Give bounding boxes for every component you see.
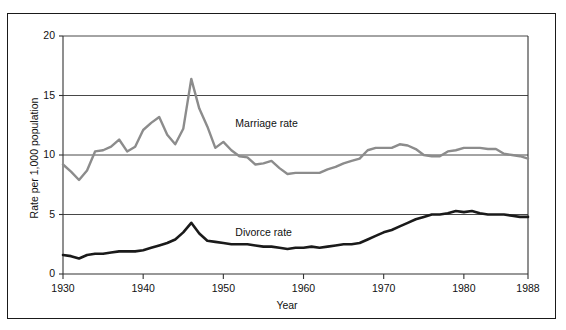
x-tick-label-1988: 1988: [504, 282, 552, 294]
plot-wrapper: Rate per 1,000 population Year 05101520 …: [0, 0, 566, 330]
x-tick-label-1950: 1950: [199, 282, 247, 294]
x-tick-label-1930: 1930: [39, 282, 87, 294]
y-tick-label-5: 5: [29, 208, 55, 220]
series-line-divorce-rate: [63, 211, 528, 259]
x-tick-label-1940: 1940: [119, 282, 167, 294]
annotation-marriage-rate: Marriage rate: [235, 117, 297, 129]
y-tick-label-10: 10: [29, 148, 55, 160]
y-tick-label-15: 15: [29, 89, 55, 101]
x-tick-label-1960: 1960: [280, 282, 328, 294]
x-axis-title-text: Year: [276, 299, 297, 311]
x-axis-title: Year: [0, 299, 566, 311]
y-tick-label-0: 0: [29, 267, 55, 279]
figure-container: Rate per 1,000 population Year 05101520 …: [0, 0, 566, 330]
annotation-divorce-rate: Divorce rate: [235, 226, 292, 238]
x-tick-label-1980: 1980: [440, 282, 488, 294]
y-tick-label-20: 20: [29, 29, 55, 41]
x-tick-label-1970: 1970: [360, 282, 408, 294]
line-chart: [0, 0, 566, 330]
series-line-marriage-rate: [63, 79, 528, 180]
